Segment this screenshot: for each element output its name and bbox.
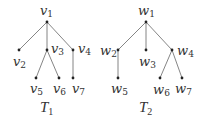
label-w7: w7 — [175, 82, 192, 97]
label-v7: v7 — [72, 82, 85, 97]
label-v2: v2 — [13, 55, 26, 70]
node-v7 — [72, 77, 75, 80]
node-w3 — [145, 49, 148, 52]
tree-t2 — [117, 21, 184, 80]
label-w3: w3 — [139, 55, 156, 70]
label-v5: v5 — [30, 82, 43, 97]
node-w7 — [181, 77, 184, 80]
edge-v1-v2 — [19, 22, 47, 50]
label-w6: w6 — [153, 83, 170, 98]
node-v4 — [72, 49, 75, 52]
label-v4: v4 — [78, 42, 91, 57]
edge-w1-w2 — [118, 22, 146, 50]
label-w1: w1 — [138, 4, 155, 19]
label-v6: v6 — [53, 82, 66, 97]
node-w5 — [117, 77, 120, 80]
node-w1 — [145, 21, 148, 24]
node-w4 — [171, 49, 174, 52]
label-w5: w5 — [111, 82, 128, 97]
node-v5 — [35, 77, 38, 80]
label-v1: v1 — [40, 4, 53, 19]
tree-title-t2: T2 — [139, 100, 152, 117]
label-v3: v3 — [51, 42, 64, 57]
node-v1 — [46, 21, 49, 24]
edge-w1-w4 — [146, 22, 172, 50]
label-w2: w2 — [100, 44, 117, 59]
node-v6 — [58, 77, 61, 80]
tree-title-t1: T1 — [40, 100, 53, 117]
node-v2 — [18, 49, 21, 52]
edge-v3-v5 — [36, 50, 47, 78]
tree-t1 — [18, 21, 75, 80]
label-w4: w4 — [177, 44, 194, 59]
tree-diagram — [0, 0, 199, 121]
node-v3 — [46, 49, 49, 52]
node-w6 — [159, 77, 162, 80]
edge-w4-w6 — [160, 50, 172, 78]
node-w2 — [117, 49, 120, 52]
